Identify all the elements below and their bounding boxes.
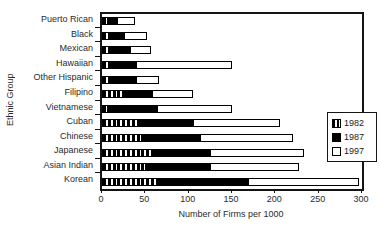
x-axis-tick-label-0: 0	[98, 194, 103, 204]
bar-segment-1982-mexican	[102, 46, 111, 54]
legend-swatch-white-icon	[332, 147, 341, 156]
bar-vietnamese	[102, 105, 232, 113]
y-axis-tick	[95, 114, 100, 115]
x-axis-tick	[274, 189, 275, 193]
y-axis-tick	[95, 172, 100, 173]
category-label-asian-indian: Asian Indian	[0, 158, 93, 173]
legend-swatch-striped-icon	[332, 119, 341, 128]
bar-filipino	[102, 90, 193, 98]
bar-segment-1982-puerto-rican	[102, 17, 108, 25]
bar-asian-indian	[102, 163, 299, 171]
bar-segment-1982-vietnamese	[102, 105, 108, 113]
category-label-korean: Korean	[0, 172, 93, 187]
legend-label-1997: 1997	[344, 146, 364, 156]
x-axis-title: Number of Firms per 1000	[100, 209, 362, 219]
bar-hawaiian	[102, 61, 232, 69]
category-label-mexican: Mexican	[0, 41, 93, 56]
x-axis-tick-label-150: 150	[223, 194, 238, 204]
x-axis-tick-label-200: 200	[267, 194, 282, 204]
legend-label-1982: 1982	[344, 118, 364, 128]
legend-item-1982: 1982	[332, 116, 374, 130]
x-axis-tick-label-100: 100	[180, 194, 195, 204]
y-axis-tick	[95, 85, 100, 86]
x-axis-tick-label-250: 250	[310, 194, 325, 204]
bar-cuban	[102, 119, 280, 127]
bar-black	[102, 32, 147, 40]
bar-segment-1982-asian-indian	[102, 163, 146, 171]
category-label-puerto-rican: Puerto Rican	[0, 12, 93, 27]
legend-label-1987: 1987	[344, 132, 364, 142]
category-label-filipino: Filipino	[0, 85, 93, 100]
bar-puerto-rican	[102, 17, 135, 25]
category-label-vietnamese: Vietnamese	[0, 100, 93, 115]
bar-segment-1982-chinese	[102, 134, 144, 142]
bar-segment-1982-other-hispanic	[102, 76, 112, 84]
x-axis-tick	[144, 189, 145, 193]
bar-segment-1982-hawaiian	[102, 61, 112, 69]
y-axis-tick	[95, 56, 100, 57]
x-axis-tick	[188, 189, 189, 193]
y-axis-tick	[95, 27, 100, 28]
y-axis-tick	[95, 41, 100, 42]
y-axis-tick	[95, 129, 100, 130]
bar-mexican	[102, 46, 151, 54]
category-label-black: Black	[0, 27, 93, 42]
bar-chinese	[102, 134, 293, 142]
bar-other-hispanic	[102, 76, 159, 84]
y-axis-tick	[95, 158, 100, 159]
x-axis-tick	[101, 189, 102, 193]
category-label-other-hispanic: Other Hispanic	[0, 70, 93, 85]
bar-korean	[102, 178, 359, 186]
bar-segment-1987-vietnamese	[102, 105, 158, 113]
legend-item-1997: 1997	[332, 144, 374, 158]
bar-segment-1982-black	[102, 32, 110, 40]
bar-segment-1982-japanese	[102, 149, 153, 157]
chart-figure: Ethnic Group Puerto RicanBlackMexicanHaw…	[0, 0, 380, 230]
legend: 1982 1987 1997	[327, 112, 377, 162]
x-axis-tick	[231, 189, 232, 193]
legend-swatch-black-icon	[332, 133, 341, 142]
bar-segment-1982-filipino	[102, 90, 125, 98]
plot-area	[100, 12, 364, 191]
bar-segment-1982-cuban	[102, 119, 138, 127]
x-axis-tick-label-300: 300	[353, 194, 368, 204]
category-label-chinese: Chinese	[0, 129, 93, 144]
bar-segment-1982-korean	[102, 178, 159, 186]
y-axis-tick	[95, 100, 100, 101]
x-axis-tick	[318, 189, 319, 193]
category-label-hawaiian: Hawaiian	[0, 56, 93, 71]
x-axis-tick	[361, 189, 362, 193]
x-axis-tick-label-50: 50	[139, 194, 149, 204]
bar-japanese	[102, 149, 304, 157]
category-label-cuban: Cuban	[0, 114, 93, 129]
y-axis-tick	[95, 70, 100, 71]
y-axis-tick	[95, 143, 100, 144]
category-labels: Puerto RicanBlackMexicanHawaiianOther Hi…	[0, 12, 96, 187]
legend-item-1987: 1987	[332, 130, 374, 144]
category-label-japanese: Japanese	[0, 143, 93, 158]
